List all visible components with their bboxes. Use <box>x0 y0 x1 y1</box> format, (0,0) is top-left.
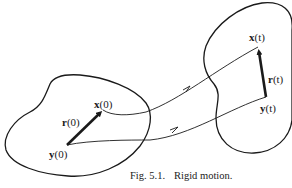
trajectory-x-arrowhead-icon <box>183 86 190 92</box>
label-xt: x(t) <box>249 32 265 43</box>
label-y0: y(0) <box>49 149 67 160</box>
label-x0: x(0) <box>94 99 112 110</box>
trajectory-x <box>103 47 258 115</box>
label-yt: y(t) <box>260 103 276 114</box>
label-rt: r(t) <box>268 74 283 85</box>
caption-text: Rigid motion. <box>174 170 232 181</box>
trajectory-y-arrowhead-icon <box>170 127 178 133</box>
figure-caption: Fig. 5.1.Rigid motion. <box>130 170 232 181</box>
label-r0: r(0) <box>62 117 80 128</box>
vector-rt-arrow <box>259 52 266 97</box>
rigid-motion-diagram <box>0 0 292 188</box>
caption-number: Fig. 5.1. <box>130 170 165 181</box>
